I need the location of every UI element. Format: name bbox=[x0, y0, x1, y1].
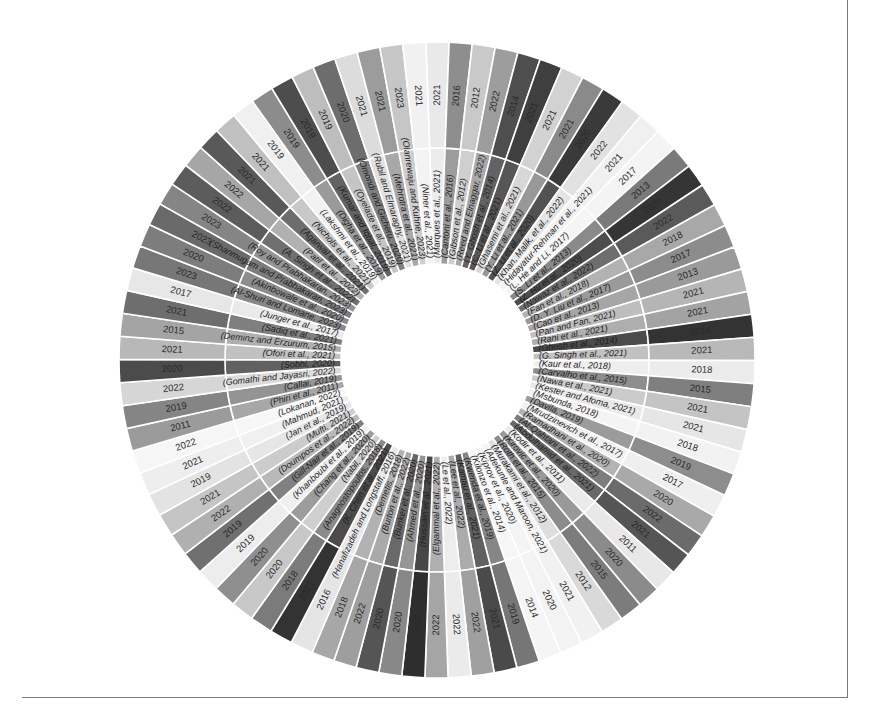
year-label: 2021 bbox=[161, 343, 183, 355]
year-label: 2021 bbox=[413, 85, 425, 107]
year-label: 2020 bbox=[161, 362, 183, 374]
year-label: 2018 bbox=[691, 363, 713, 375]
year-label: 2021 bbox=[431, 84, 442, 105]
year-label: 2021 bbox=[691, 344, 713, 356]
year-label: 2022 bbox=[162, 381, 184, 394]
year-label: 2016 bbox=[450, 85, 463, 107]
year-label: 2014 bbox=[689, 324, 711, 337]
radial-citation-chart: (Marques et al., 2021)2021(Cantoni et al… bbox=[0, 0, 872, 725]
year-label: 2021 bbox=[410, 613, 423, 635]
center-hole bbox=[341, 264, 533, 456]
year-label: 2022 bbox=[451, 613, 463, 635]
year-label: 2015 bbox=[689, 382, 711, 395]
year-label: 2022 bbox=[430, 614, 441, 635]
year-label: 2015 bbox=[163, 323, 185, 336]
